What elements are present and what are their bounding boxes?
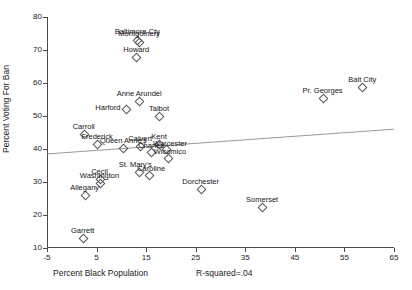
x-tick (47, 248, 48, 252)
data-point-label: Allegany (70, 183, 99, 192)
y-tick-label: 60 (2, 78, 42, 87)
x-tick (97, 248, 98, 252)
x-tick-label: 65 (379, 253, 409, 262)
x-tick (245, 248, 246, 252)
x-tick-label: 35 (230, 253, 260, 262)
plot-area: 1020304050607080 -55152535455565 Baltimo… (47, 17, 394, 248)
x-tick (196, 248, 197, 252)
data-point-label: Howard (123, 45, 149, 54)
x-tick-label: 5 (82, 253, 112, 262)
data-point-label: Dorchester (182, 177, 219, 186)
x-tick (344, 248, 345, 252)
x-axis-title: Percent Black Population (53, 268, 148, 278)
y-tick-label: 50 (2, 111, 42, 120)
data-point-label: Carroll (73, 122, 95, 131)
x-tick (146, 248, 147, 252)
data-point-marker (155, 112, 165, 122)
data-point-marker (80, 190, 90, 200)
data-point-label: Harford (95, 103, 120, 112)
data-point-label: Montgomery (118, 29, 160, 38)
data-point-marker (119, 144, 129, 154)
data-point-label: Balt City (348, 75, 376, 84)
data-point-marker (78, 234, 88, 244)
data-points-layer: Baltimore CtyMontgomeryHowardAnne Arunde… (47, 17, 394, 248)
y-tick-label: 20 (2, 210, 42, 219)
data-point-marker (135, 96, 145, 106)
data-point-label: Somerset (246, 195, 278, 204)
y-tick-label: 70 (2, 45, 42, 54)
data-point-label: Garrett (71, 226, 94, 235)
data-point-marker (258, 203, 268, 213)
y-tick-label: 30 (2, 177, 42, 186)
data-point-marker (196, 184, 206, 194)
data-point-marker (358, 83, 368, 93)
x-tick-label: 15 (131, 253, 161, 262)
x-tick (295, 248, 296, 252)
data-point-label: Pr. Georges (303, 86, 343, 95)
x-tick-label: 25 (181, 253, 211, 262)
x-tick-label: 55 (329, 253, 359, 262)
y-tick-label: 10 (2, 243, 42, 252)
data-point-marker (121, 105, 131, 115)
data-point-marker (318, 93, 328, 103)
data-point-label: Washington (80, 171, 119, 180)
data-point-label: Caroline (137, 164, 165, 173)
data-point-marker (132, 52, 142, 62)
scatter-chart: Percent Voting For Ban Percent Black Pop… (0, 0, 412, 290)
x-tick (394, 248, 395, 252)
data-point-label: Wicomico (154, 147, 187, 156)
data-point-label: Talbot (149, 104, 169, 113)
y-tick-label: 80 (2, 12, 42, 21)
r-squared-annotation: R-squared=.04 (196, 268, 252, 278)
data-point-label: Anne Arundel (117, 89, 162, 98)
x-tick-label: -5 (32, 253, 62, 262)
x-tick-label: 45 (280, 253, 310, 262)
y-tick-label: 40 (2, 144, 42, 153)
